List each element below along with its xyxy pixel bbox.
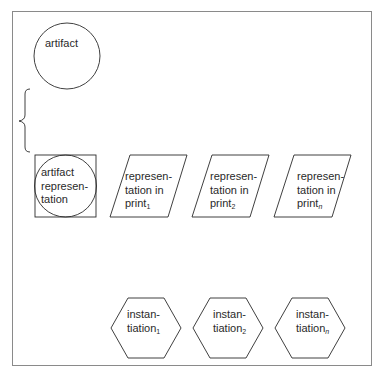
representation-label-1: represen- tation in print1 [125,170,172,211]
subscript: 2 [242,328,246,335]
subscript: n [318,203,322,210]
label-line: instan- [296,308,329,322]
representation-label-2: represen- tation in print2 [210,170,257,211]
subscript: n [325,328,329,335]
label-line: instan- [213,308,246,322]
label-line: tation [41,193,88,207]
artifact-circle [34,23,100,89]
label-line: represen- [210,170,257,184]
label-line: print [125,197,146,209]
label-line: print [210,197,231,209]
artifact-representation-label: artifact represen- tation [41,166,88,207]
label-line: tiation [296,322,325,334]
label-line: represen- [125,170,172,184]
artifact-label: artifact [45,37,78,51]
label-line: represen- [41,180,88,194]
label-line: represen- [297,170,344,184]
instantiation-label-1: instan- tiation1 [127,308,160,335]
subscript: 1 [146,203,150,210]
label-line: tiation [213,322,242,334]
label-line: artifact [41,166,88,180]
representation-label-3: represen- tation in printn [297,170,344,211]
label-line: print [297,197,318,209]
label-line: tation in [210,184,257,198]
instantiation-label-2: instan- tiation2 [213,308,246,335]
label-line: tiation [127,322,156,334]
label-line: tation in [125,184,172,198]
subscript: 1 [156,328,160,335]
label-line: instan- [127,308,160,322]
instantiation-label-3: instan- tiationn [296,308,329,335]
curly-brace [19,89,30,152]
label-line: tation in [297,184,344,198]
subscript: 2 [231,203,235,210]
